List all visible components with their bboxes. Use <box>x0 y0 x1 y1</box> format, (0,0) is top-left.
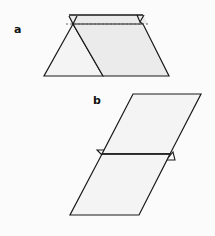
panel-b-upper-parallelogram <box>102 94 201 154</box>
diagram-svg <box>0 0 215 236</box>
panel-b-figure <box>70 94 201 215</box>
panel-a-top-strip <box>69 15 148 24</box>
panel-a-figure <box>44 15 169 76</box>
panel-b-lower-parallelogram <box>70 154 170 215</box>
diagram-canvas: a b <box>0 0 215 236</box>
